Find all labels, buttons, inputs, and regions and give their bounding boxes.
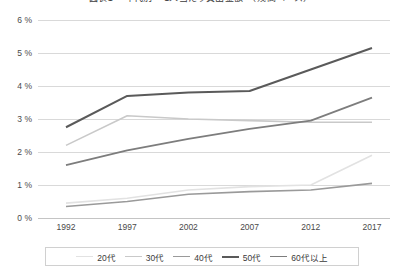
series-lines bbox=[38, 20, 390, 218]
legend-label: 40代 bbox=[194, 251, 212, 263]
legend-swatch-icon bbox=[270, 256, 287, 257]
y-tick-label: 2 % bbox=[0, 147, 32, 157]
series-line bbox=[66, 183, 372, 206]
legend-label: 20代 bbox=[97, 251, 115, 263]
legend-item[interactable]: 30代 bbox=[125, 251, 164, 263]
y-tick-label: 3 % bbox=[0, 114, 32, 124]
series-line bbox=[66, 155, 372, 203]
y-tick-label: 0 % bbox=[0, 213, 32, 223]
legend-swatch-icon bbox=[76, 256, 93, 257]
legend-item[interactable]: 40代 bbox=[173, 251, 212, 263]
y-tick-label: 6 % bbox=[0, 15, 32, 25]
legend-item[interactable]: 50代 bbox=[222, 251, 261, 263]
series-line bbox=[66, 98, 372, 166]
legend-item[interactable]: 60代以上 bbox=[270, 251, 327, 263]
x-tick-label: 2012 bbox=[301, 222, 320, 232]
x-tick-label: 1997 bbox=[118, 222, 137, 232]
legend-swatch-icon bbox=[125, 256, 142, 257]
legend-label: 60代以上 bbox=[291, 251, 327, 263]
y-axis-labels: 0 %1 %2 %3 %4 %5 %6 % bbox=[0, 20, 32, 218]
x-tick-label: 2007 bbox=[240, 222, 259, 232]
plot-area bbox=[38, 20, 390, 218]
legend-swatch-icon bbox=[173, 256, 190, 257]
x-tick-label: 2017 bbox=[363, 222, 382, 232]
series-line bbox=[66, 116, 372, 146]
y-tick-label: 5 % bbox=[0, 48, 32, 58]
gridline-0 bbox=[38, 218, 390, 219]
y-tick-label: 4 % bbox=[0, 81, 32, 91]
legend-label: 30代 bbox=[146, 251, 164, 263]
x-axis-labels: 199219972002200720122017 bbox=[38, 222, 390, 236]
chart-title: 図表1 年代別 1人当たり貸出金額 （残高ベース） bbox=[0, 0, 402, 4]
legend-label: 50代 bbox=[243, 251, 261, 263]
chart-legend: 20代30代40代50代60代以上 bbox=[45, 247, 359, 266]
x-tick-label: 1992 bbox=[57, 222, 76, 232]
legend-swatch-icon bbox=[222, 256, 239, 258]
chart-container: 図表1 年代別 1人当たり貸出金額 （残高ベース） 0 %1 %2 %3 %4 … bbox=[0, 0, 402, 272]
x-tick-label: 2002 bbox=[179, 222, 198, 232]
legend-item[interactable]: 20代 bbox=[76, 251, 115, 263]
y-tick-label: 1 % bbox=[0, 180, 32, 190]
